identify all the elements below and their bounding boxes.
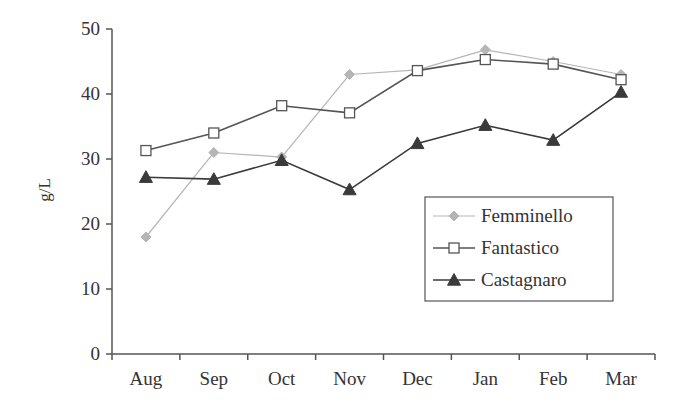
- y-tick-label: 0: [91, 343, 101, 364]
- triangle-marker-icon: [343, 183, 356, 195]
- y-tick-label: 50: [81, 18, 100, 39]
- y-tick-label: 20: [81, 213, 100, 234]
- legend-label: Femminello: [481, 205, 573, 226]
- x-tick-label: Nov: [333, 368, 366, 389]
- y-tick-label: 10: [81, 278, 100, 299]
- square-open-marker-icon: [345, 108, 355, 118]
- square-open-marker-icon: [548, 59, 558, 69]
- x-tick-label: Feb: [539, 368, 568, 389]
- y-tick-label: 30: [81, 148, 100, 169]
- square-open-marker-icon: [412, 66, 422, 76]
- series-castagnaro: [139, 86, 627, 195]
- square-open-marker-icon: [141, 146, 151, 156]
- legend-label: Castagnaro: [481, 269, 566, 290]
- square-open-marker-icon: [616, 75, 626, 85]
- y-axis: 01020304050: [81, 18, 112, 364]
- square-open-marker-icon: [277, 101, 287, 111]
- triangle-marker-icon: [275, 154, 288, 166]
- line-chart: 01020304050 AugSepOctNovDecJanFebMar g/L…: [0, 0, 700, 410]
- y-tick-label: 40: [81, 83, 100, 104]
- square-open-marker-icon: [480, 55, 490, 65]
- x-tick-label: Aug: [130, 368, 163, 389]
- x-tick-label: Sep: [200, 368, 229, 389]
- triangle-marker-icon: [479, 119, 492, 131]
- y-axis-title: g/L: [35, 178, 54, 202]
- legend: FemminelloFantasticoCastagnaro: [425, 197, 613, 301]
- legend-label: Fantastico: [481, 237, 559, 258]
- square-open-legend-icon: [449, 243, 459, 253]
- diamond-marker-icon: [480, 45, 490, 55]
- x-tick-label: Mar: [605, 368, 637, 389]
- x-tick-label: Jan: [473, 368, 499, 389]
- triangle-marker-icon: [615, 86, 628, 98]
- square-open-marker-icon: [209, 128, 219, 138]
- x-tick-label: Oct: [268, 368, 296, 389]
- x-tick-label: Dec: [402, 368, 433, 389]
- x-axis: AugSepOctNovDecJanFebMar: [112, 354, 655, 389]
